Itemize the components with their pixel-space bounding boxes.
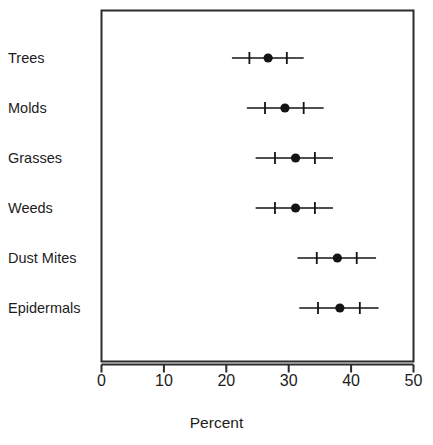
x-axis [102, 365, 414, 373]
mean-marker-weeds [291, 203, 300, 212]
data-point-grasses [256, 152, 333, 164]
data-point-molds [247, 102, 324, 114]
chart-figure: .... ... ... ... ....... ..... .. .... .… [0, 0, 433, 445]
data-point-dust-mites [297, 252, 376, 264]
category-label-trees: Trees [8, 50, 45, 66]
category-label-dust-mites: Dust Mites [8, 250, 77, 266]
x-tick-label-40: 40 [342, 372, 360, 390]
category-label-molds: Molds [8, 100, 47, 116]
data-point-weeds [256, 202, 333, 214]
x-tick-label-20: 20 [217, 372, 235, 390]
category-label-weeds: Weeds [8, 200, 53, 216]
data-point-epidermals [299, 302, 378, 314]
category-label-epidermals: Epidermals [8, 300, 81, 316]
x-tick-label-30: 30 [280, 372, 298, 390]
data-marks [232, 52, 379, 314]
mean-marker-dust-mites [333, 253, 342, 262]
x-axis-title: Percent [0, 414, 433, 432]
x-tick-label-0: 0 [97, 372, 106, 390]
x-tick-label-50: 50 [405, 372, 423, 390]
plot-frame [102, 11, 414, 362]
x-tick-label-10: 10 [155, 372, 173, 390]
mean-marker-molds [280, 103, 289, 112]
category-label-grasses: Grasses [8, 150, 62, 166]
mean-marker-grasses [291, 153, 300, 162]
mean-marker-trees [264, 53, 273, 62]
mean-marker-epidermals [335, 303, 344, 312]
data-point-trees [232, 52, 304, 64]
